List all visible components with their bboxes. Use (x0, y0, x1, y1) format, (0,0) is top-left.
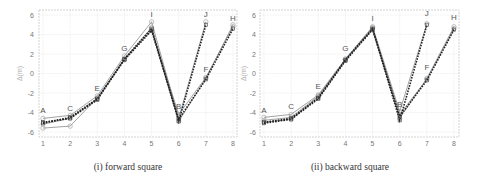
point-label-f: F (203, 65, 208, 74)
caption-backward-square: (ii) backward square (311, 162, 389, 173)
point-label-b: B (176, 102, 181, 111)
x-tick-label: 3 (316, 140, 320, 147)
point-label-h: H (230, 14, 236, 23)
x-tick-label: 6 (177, 140, 181, 147)
x-tick-label: 5 (371, 140, 375, 147)
y-tick-label: -2 (250, 90, 256, 97)
panel-backward-square: 12345678-6-4-20246Δ(m)ACEGIBJFH (240, 9, 459, 147)
y-axis-label: Δ(m) (16, 66, 24, 81)
point-label-j: J (204, 10, 208, 19)
y-tick-label: 2 (30, 51, 34, 58)
x-tick-label: 8 (452, 140, 456, 147)
x-tick-label: 2 (68, 140, 72, 147)
y-tick-label: 4 (252, 31, 256, 38)
x-tick-label: 1 (41, 140, 45, 147)
y-tick-label: -4 (250, 109, 256, 116)
x-tick-label: 8 (231, 140, 235, 147)
point-label-c: C (288, 102, 294, 111)
y-tick-label: -6 (28, 129, 34, 136)
figure: 12345678-6-4-20246Δ(m)ACEGIBJFH 12345678… (0, 0, 477, 179)
y-tick-label: 6 (252, 12, 256, 19)
y-tick-label: 2 (252, 51, 256, 58)
point-label-a: A (40, 106, 46, 115)
x-tick-label: 5 (150, 140, 154, 147)
x-tick-label: 1 (262, 140, 266, 147)
x-tick-label: 4 (343, 140, 347, 147)
point-label-i: I (150, 10, 152, 19)
point-label-e: E (95, 84, 100, 93)
x-tick-label: 6 (398, 140, 402, 147)
point-label-f: F (424, 63, 429, 72)
y-tick-label: 6 (30, 12, 34, 19)
x-tick-label: 3 (95, 140, 99, 147)
x-tick-label: 7 (425, 140, 429, 147)
caption-forward-square: (i) forward square (94, 162, 163, 173)
point-label-b: B (397, 100, 402, 109)
y-axis-label: Δ(m) (240, 66, 248, 81)
point-label-e: E (316, 82, 321, 91)
x-tick-label: 2 (289, 140, 293, 147)
point-label-j: J (425, 9, 429, 18)
point-label-h: H (451, 13, 457, 22)
panel-forward-square: 12345678-6-4-20246Δ(m)ACEGIBJFH (16, 10, 237, 147)
y-tick-label: -6 (250, 129, 256, 136)
point-label-a: A (261, 106, 267, 115)
y-tick-label: -2 (28, 90, 34, 97)
y-tick-label: 0 (252, 70, 256, 77)
x-tick-label: 7 (204, 140, 208, 147)
y-tick-label: 4 (30, 31, 34, 38)
y-tick-label: -4 (28, 109, 34, 116)
x-tick-label: 4 (122, 140, 126, 147)
y-tick-label: 0 (30, 70, 34, 77)
point-label-i: I (371, 14, 373, 23)
point-label-g: G (342, 44, 348, 53)
point-label-c: C (67, 104, 73, 113)
point-label-g: G (121, 44, 127, 53)
